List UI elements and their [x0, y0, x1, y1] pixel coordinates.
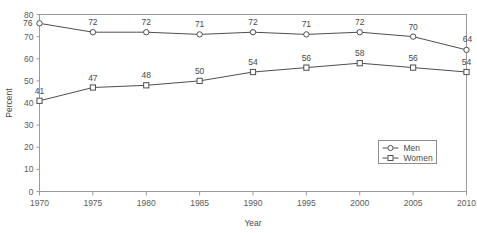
series-line-men: [40, 23, 467, 50]
data-point-label: 71: [195, 19, 205, 29]
x-tick-label: 1985: [190, 198, 209, 208]
data-point-label: 72: [355, 17, 365, 27]
line-chart: 01020304050607080 1970197519801985199019…: [0, 0, 477, 233]
y-tick-label: 30: [24, 120, 34, 130]
plot-frame: [40, 15, 467, 192]
data-point-marker: [304, 65, 309, 70]
x-tick-label: 1975: [83, 198, 102, 208]
data-point-label: 56: [408, 53, 418, 63]
data-point-marker: [411, 65, 416, 70]
y-tick-label: 70: [24, 32, 34, 42]
data-point-label: 54: [462, 57, 472, 67]
data-point-marker: [464, 47, 469, 52]
data-point-marker: [90, 30, 95, 35]
data-point-label: 70: [408, 22, 418, 32]
y-tick-label: 0: [29, 187, 34, 197]
y-tick-label: 50: [24, 76, 34, 86]
data-point-marker: [410, 34, 415, 39]
chart-legend: MenWomen: [379, 141, 437, 164]
data-point-label: 41: [35, 86, 45, 96]
x-tick-label: 1990: [244, 198, 263, 208]
legend-label-women: Women: [404, 153, 433, 163]
data-point-marker: [37, 21, 42, 26]
chart-screenshot: 01020304050607080 1970197519801985199019…: [0, 0, 477, 233]
data-point-marker: [357, 30, 362, 35]
y-tick-label: 10: [24, 164, 34, 174]
x-axis-title: Year: [244, 218, 261, 228]
data-point-marker: [37, 98, 42, 103]
data-point-marker: [304, 32, 309, 37]
data-point-marker: [144, 30, 149, 35]
series-line-women: [40, 63, 467, 101]
legend-label-men: Men: [404, 143, 421, 153]
data-point-label: 72: [248, 17, 258, 27]
data-point-marker: [250, 69, 255, 74]
data-point-label: 50: [195, 66, 205, 76]
y-tick-label: 60: [24, 54, 34, 64]
data-point-label: 48: [142, 70, 152, 80]
data-point-label: 58: [355, 48, 365, 58]
data-point-marker: [197, 78, 202, 83]
x-axis-ticks: 197019751980198519901995200020052010: [30, 192, 476, 208]
y-tick-label: 20: [24, 142, 34, 152]
x-tick-label: 1970: [30, 198, 49, 208]
data-point-label: 71: [302, 19, 312, 29]
data-point-label: 54: [248, 57, 258, 67]
data-point-marker: [197, 32, 202, 37]
x-tick-label: 2005: [404, 198, 423, 208]
y-tick-label: 40: [24, 98, 34, 108]
data-point-label: 56: [302, 53, 312, 63]
x-tick-label: 1995: [297, 198, 316, 208]
data-point-label: 72: [88, 17, 98, 27]
data-point-marker: [90, 85, 95, 90]
y-axis-title: Percent: [4, 88, 14, 118]
data-point-label: 47: [88, 73, 98, 83]
data-point-marker: [250, 30, 255, 35]
x-tick-label: 2010: [457, 198, 476, 208]
legend-marker: [388, 156, 393, 161]
data-point-marker: [464, 69, 469, 74]
data-point-marker: [357, 61, 362, 66]
legend-marker: [388, 145, 393, 150]
data-labels-group: 767272717271727064414748505456585654: [23, 17, 472, 96]
data-point-label: 72: [142, 17, 152, 27]
x-tick-label: 2000: [350, 198, 369, 208]
data-point-label: 76: [23, 18, 33, 28]
data-point-marker: [144, 83, 149, 88]
data-point-label: 64: [463, 34, 473, 44]
x-tick-label: 1980: [137, 198, 156, 208]
